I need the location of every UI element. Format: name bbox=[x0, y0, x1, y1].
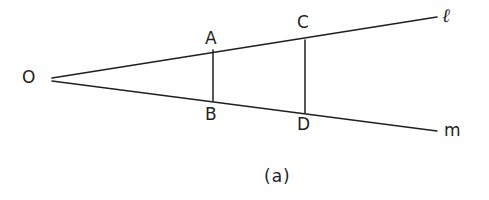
figure-canvas bbox=[0, 0, 489, 200]
point-label-a: A bbox=[205, 30, 217, 47]
line-label-m: m bbox=[444, 122, 461, 139]
figure-background bbox=[0, 0, 489, 200]
line-label-l: ℓ bbox=[442, 6, 450, 25]
figure-caption: (a) bbox=[264, 168, 291, 185]
point-label-b: B bbox=[205, 106, 217, 123]
geometry-figure: O A B C D ℓ m (a) bbox=[0, 0, 489, 200]
point-label-d: D bbox=[297, 116, 310, 133]
point-label-o: O bbox=[22, 69, 36, 86]
point-label-c: C bbox=[297, 14, 309, 31]
